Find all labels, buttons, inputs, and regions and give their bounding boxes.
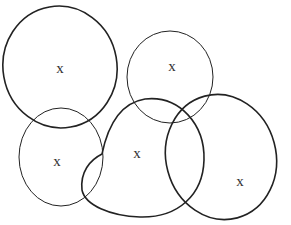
label-bottom-right: x — [236, 173, 244, 189]
ellipse-bottom-left — [19, 108, 103, 206]
label-top-left: x — [56, 60, 64, 76]
venn-diagram: x x x x x — [0, 0, 291, 225]
label-middle: x — [133, 145, 141, 161]
label-bottom-left: x — [53, 153, 61, 169]
label-top-right: x — [168, 58, 176, 74]
ellipse-middle — [82, 99, 204, 217]
ellipse-top-right — [127, 31, 213, 123]
